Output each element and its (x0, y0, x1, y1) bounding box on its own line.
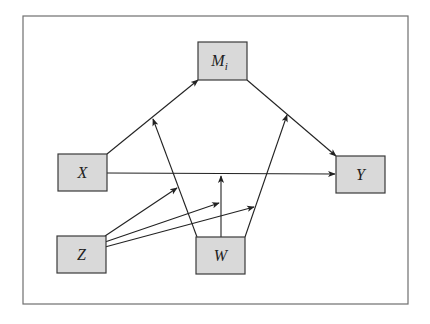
node-m: Mi (198, 42, 247, 80)
node-x: X (58, 154, 107, 191)
node-w: W (196, 237, 245, 274)
node-label: Z (77, 246, 87, 263)
node-y: Y (336, 156, 385, 193)
node-label: X (77, 164, 89, 181)
node-z: Z (57, 236, 106, 273)
path-diagram: MiXYZW (0, 0, 430, 324)
node-label: W (214, 247, 229, 264)
